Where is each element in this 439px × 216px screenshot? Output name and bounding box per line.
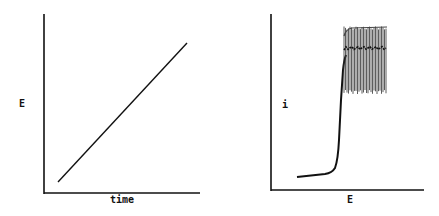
right-y-label: i (282, 99, 288, 110)
right-panel: i E (271, 14, 424, 205)
left-panel: E time (19, 14, 200, 205)
current-curve (297, 55, 346, 177)
left-y-label: E (19, 98, 25, 109)
oscillation-band (344, 27, 387, 95)
left-x-label: time (110, 194, 134, 205)
linear-ramp-line (58, 43, 187, 182)
figure: E time i E (0, 0, 439, 216)
right-x-label: E (347, 194, 353, 205)
